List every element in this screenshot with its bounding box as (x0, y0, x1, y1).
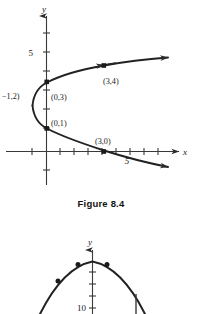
x-axis-label: x (182, 147, 187, 157)
y-axis (43, 16, 50, 185)
next-figure-point-right (105, 262, 110, 267)
label-point-3-4: (3,4) (103, 77, 119, 86)
y-tick-label-5: 5 (29, 48, 34, 58)
next-figure-tick-label-10: 10 (77, 303, 87, 313)
label-point-0-3: (0,3) (51, 93, 67, 102)
y-axis-label: y (41, 4, 46, 14)
next-figure-point-left (76, 262, 81, 267)
figure-caption: Figure 8.4 (0, 198, 202, 209)
point-0-3 (44, 80, 49, 85)
figure-page: x y 5 5 −1,2) (0,3) (0,1) (3,0) (3,4) Fi… (0, 0, 202, 314)
label-point-3-0: (3,0) (95, 137, 111, 146)
next-figure-y-axis-label: y (87, 237, 92, 247)
point-3-0 (102, 149, 107, 154)
figure-8-4-graph: x y 5 5 −1,2) (0,3) (0,1) (3,0) (3,4) (0, 0, 202, 192)
x-axis (6, 148, 179, 155)
next-figure-y-axis (89, 250, 96, 314)
point-3-4 (102, 63, 107, 68)
next-figure-partial: y 10 (0, 228, 202, 314)
x-tick-label-5: 5 (125, 156, 130, 166)
point-0-1 (44, 126, 49, 131)
label-vertex-minus1-2: −1,2) (2, 92, 20, 101)
next-figure-point-far-left (56, 279, 61, 284)
label-point-0-1: (0,1) (51, 119, 67, 128)
